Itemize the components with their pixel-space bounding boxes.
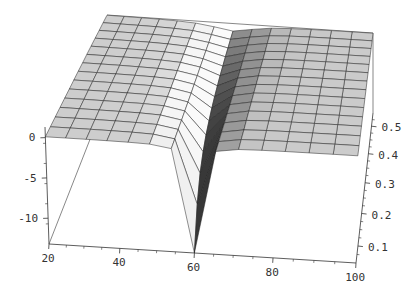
surface-quad bbox=[299, 77, 323, 87]
surface-quad bbox=[287, 132, 312, 143]
y-axis-tick bbox=[362, 213, 367, 214]
surface-quad bbox=[275, 85, 299, 95]
y-axis-tick bbox=[372, 126, 377, 127]
surface-quad bbox=[99, 101, 123, 112]
surface-quad bbox=[336, 125, 361, 136]
surface-quad bbox=[123, 93, 147, 104]
surface-quad bbox=[335, 134, 361, 145]
surface-quad bbox=[124, 49, 146, 59]
surface-quad bbox=[316, 105, 341, 116]
surface-quad bbox=[277, 76, 301, 86]
surface-quad bbox=[261, 59, 284, 68]
surface-quad bbox=[262, 140, 288, 151]
surface-quad bbox=[256, 76, 279, 85]
x-axis-tick-label: 60 bbox=[187, 261, 200, 274]
surface-quad bbox=[342, 88, 366, 98]
surface-quad bbox=[318, 96, 342, 106]
x-axis-tick-label: 20 bbox=[41, 252, 54, 265]
x-axis-line bbox=[49, 244, 356, 263]
y-axis-tick-label: 0.4 bbox=[378, 149, 398, 162]
surface-quad bbox=[313, 123, 338, 134]
surface-quad bbox=[216, 140, 241, 152]
z-axis-line bbox=[45, 127, 49, 244]
x-axis-tick-label: 80 bbox=[266, 266, 279, 279]
surface-quad bbox=[304, 53, 327, 62]
surface-quad bbox=[350, 40, 372, 49]
surface-quad bbox=[306, 45, 328, 54]
surface-quad bbox=[280, 68, 303, 77]
surface-quad bbox=[295, 95, 319, 105]
surface-quad bbox=[127, 41, 149, 50]
x-axis-tick-label: 100 bbox=[345, 271, 365, 284]
z-axis-tick-label: -10 bbox=[18, 212, 38, 225]
y-axis-tick bbox=[358, 246, 363, 247]
surface-quad bbox=[116, 65, 139, 75]
surface-quad bbox=[121, 17, 142, 26]
surface-quad bbox=[267, 36, 289, 44]
surface-quad bbox=[301, 69, 324, 79]
surface-plot-canvas: 204060801000.10.20.30.40.50-5-10 bbox=[0, 0, 411, 305]
surface-quad bbox=[291, 113, 316, 124]
surface-quad bbox=[293, 104, 317, 115]
surface-quad bbox=[265, 44, 287, 52]
surface-quad bbox=[249, 102, 273, 112]
surface-quad bbox=[269, 28, 291, 36]
surface-quad bbox=[259, 68, 282, 77]
surface-quad bbox=[338, 115, 363, 126]
surface-quad bbox=[251, 93, 275, 102]
surface-quad bbox=[321, 78, 345, 88]
surface-quad bbox=[246, 111, 271, 121]
surface-quad bbox=[254, 84, 278, 93]
surface-quad bbox=[333, 144, 359, 156]
surface-quad bbox=[309, 143, 335, 155]
surface-quad bbox=[339, 106, 364, 117]
surface-quad bbox=[343, 80, 367, 90]
surface-quad bbox=[239, 140, 265, 151]
surface-quad bbox=[115, 111, 140, 122]
surface-quad bbox=[310, 30, 332, 39]
surface-quad bbox=[127, 84, 151, 95]
surface-quad bbox=[303, 61, 326, 70]
surface-quad bbox=[311, 133, 337, 144]
surface-quad bbox=[329, 38, 351, 47]
y-axis-tick-label: 0.3 bbox=[375, 178, 395, 191]
surface-quad bbox=[113, 32, 135, 41]
surface-quad bbox=[273, 94, 297, 104]
surface-quad bbox=[104, 92, 128, 103]
surface-quad bbox=[263, 51, 286, 59]
surface-quad bbox=[345, 71, 368, 81]
surface-quad bbox=[269, 112, 294, 123]
z-axis-tick-label: 0 bbox=[29, 131, 36, 144]
surface-quad bbox=[314, 114, 339, 125]
y-axis-tick bbox=[365, 183, 370, 184]
surface-quad bbox=[285, 142, 311, 153]
surface-quad bbox=[244, 120, 269, 130]
y-axis-tick bbox=[368, 154, 373, 155]
surface-quad bbox=[264, 131, 289, 142]
x-axis-tick-label: 40 bbox=[112, 256, 125, 269]
surface-quad bbox=[128, 132, 153, 144]
surface-quad bbox=[346, 63, 369, 73]
surface-quad bbox=[282, 60, 305, 69]
y-axis-tick-label: 0.5 bbox=[381, 121, 401, 134]
surface-quad bbox=[287, 36, 309, 45]
plot3d-figure: 204060801000.10.20.30.40.50-5-10 bbox=[0, 0, 411, 305]
surface-mesh bbox=[45, 15, 373, 253]
surface-quad bbox=[241, 130, 266, 140]
y-axis-tick-label: 0.2 bbox=[372, 209, 392, 222]
surface-quad bbox=[341, 97, 365, 107]
surface-quad bbox=[349, 47, 372, 56]
surface-quad bbox=[308, 37, 330, 46]
surface-quad bbox=[323, 70, 346, 80]
z-axis-tick-label: -5 bbox=[23, 172, 36, 185]
surface-quad bbox=[91, 120, 116, 131]
surface-quad bbox=[327, 46, 350, 55]
surface-quad bbox=[284, 52, 307, 61]
surface-quad bbox=[112, 74, 135, 84]
surface-quad bbox=[297, 86, 321, 96]
surface-quad bbox=[266, 121, 291, 132]
surface-quad bbox=[326, 54, 349, 63]
surface-quad bbox=[107, 131, 132, 143]
y-axis-tick-label: 0.1 bbox=[368, 241, 388, 254]
surface-quad bbox=[289, 29, 311, 37]
